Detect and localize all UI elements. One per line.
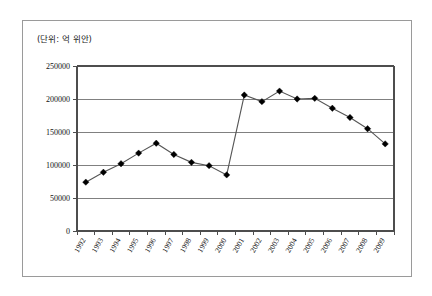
x-axis-tick-label: 2009 xyxy=(372,236,387,254)
x-axis-tick-label: 2008 xyxy=(354,236,369,254)
y-axis-tick-label: 50000 xyxy=(50,194,70,203)
data-point-marker xyxy=(241,92,247,98)
x-axis-tick-label: 1999 xyxy=(195,236,210,254)
x-axis-tick-label: 2003 xyxy=(266,236,281,254)
data-point-marker xyxy=(171,151,177,157)
data-point-marker xyxy=(312,95,318,101)
x-axis-tick-label: 2000 xyxy=(213,236,228,254)
x-axis-tick-label: 1997 xyxy=(160,236,175,254)
data-point-marker xyxy=(223,172,229,178)
x-axis-tick-label: 2007 xyxy=(336,236,351,254)
x-axis-tick-label: 1994 xyxy=(107,236,122,254)
data-point-marker xyxy=(118,160,124,166)
x-axis-tick-label: 1995 xyxy=(125,236,140,254)
data-point-marker xyxy=(347,114,353,120)
x-axis-tick-label: 2002 xyxy=(248,236,263,254)
y-axis-tick-label: 100000 xyxy=(46,161,70,170)
x-axis-tick-label: 2006 xyxy=(319,236,334,254)
x-axis-tick-label: 1998 xyxy=(178,236,193,254)
x-axis-tick-label: 2001 xyxy=(231,236,246,254)
chart-plot-area: 0500001000001500002000002500001992199319… xyxy=(23,21,413,278)
y-axis-tick-label: 250000 xyxy=(46,62,70,71)
x-axis-tick-label: 1993 xyxy=(90,236,105,254)
y-axis-tick-label: 150000 xyxy=(46,128,70,137)
data-point-marker xyxy=(100,169,106,175)
x-axis-tick-label: 2004 xyxy=(283,236,298,254)
series-line xyxy=(86,91,385,182)
y-axis-tick-label: 200000 xyxy=(46,95,70,104)
line-chart-svg: 0500001000001500002000002500001992199319… xyxy=(23,21,413,278)
data-point-marker xyxy=(135,150,141,156)
chart-figure-frame: (단위: 억 위안) 05000010000015000020000025000… xyxy=(22,20,412,277)
x-axis-tick-label: 1992 xyxy=(72,236,87,254)
data-point-marker xyxy=(83,179,89,185)
data-point-marker xyxy=(294,96,300,102)
x-axis-tick-label: 1996 xyxy=(143,236,158,254)
data-point-marker xyxy=(276,88,282,94)
data-point-marker xyxy=(206,162,212,168)
y-axis-tick-label: 0 xyxy=(66,227,70,236)
x-axis-tick-label: 2005 xyxy=(301,236,316,254)
data-point-marker xyxy=(153,140,159,146)
data-point-marker xyxy=(329,105,335,111)
